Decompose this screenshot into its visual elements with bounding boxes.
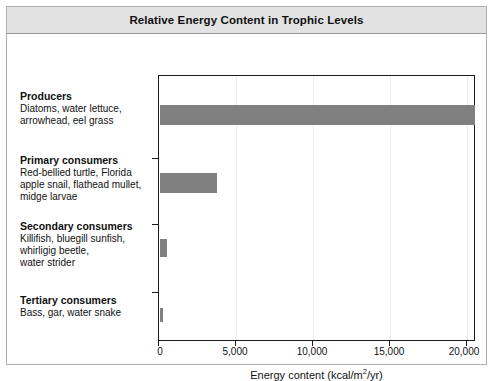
category-name: Tertiary consumers — [20, 294, 152, 307]
xtick-label-10000: 10,000 — [297, 346, 328, 357]
category-label-primary-consumers: Primary consumers Red-bellied turtle, Fl… — [20, 154, 152, 203]
category-label-tertiary-consumers: Tertiary consumers Bass, gar, water snak… — [20, 294, 152, 319]
x-axis-title: Energy content (kcal/m2/yr) — [158, 367, 475, 381]
plot-area — [158, 75, 475, 341]
page-title: Relative Energy Content in Trophic Level… — [129, 14, 363, 26]
xtick-label-20000: 20,000 — [449, 346, 480, 357]
category-name: Producers — [20, 90, 152, 103]
category-label-secondary-consumers: Secondary consumers Killifish, bluegill … — [20, 220, 152, 269]
category-name: Secondary consumers — [20, 220, 152, 233]
bar-producers — [160, 105, 475, 125]
x-axis-title-tail: /yr) — [367, 369, 383, 381]
category-species: Red-bellied turtle, Florida apple snail,… — [20, 167, 152, 204]
bar-tertiary-consumers — [160, 308, 163, 322]
category-species: Bass, gar, water snake — [20, 307, 152, 319]
category-species: Killifish, bluegill sunfish, whirligig b… — [20, 233, 152, 270]
xtick-label-5000: 5,000 — [222, 346, 247, 357]
ytick-tertiary — [152, 292, 158, 293]
category-name: Primary consumers — [20, 154, 152, 167]
category-label-column: Producers Diatoms, water lettuce, arrowh… — [7, 34, 152, 365]
bar-secondary-consumers — [160, 239, 167, 257]
x-axis-title-main: Energy content (kcal/m — [250, 369, 363, 381]
ytick-primary — [152, 158, 158, 159]
chart-card: Relative Energy Content in Trophic Level… — [6, 6, 487, 365]
figure: Producers Diatoms, water lettuce, arrowh… — [7, 34, 486, 365]
card-header: Relative Energy Content in Trophic Level… — [7, 7, 486, 34]
ytick-secondary — [152, 224, 158, 225]
bar-primary-consumers — [160, 173, 217, 193]
category-label-producers: Producers Diatoms, water lettuce, arrowh… — [20, 90, 152, 127]
xtick-label-15000: 15,000 — [374, 346, 405, 357]
category-species: Diatoms, water lettuce, arrowhead, eel g… — [20, 103, 152, 127]
xtick-label-0: 0 — [157, 346, 163, 357]
